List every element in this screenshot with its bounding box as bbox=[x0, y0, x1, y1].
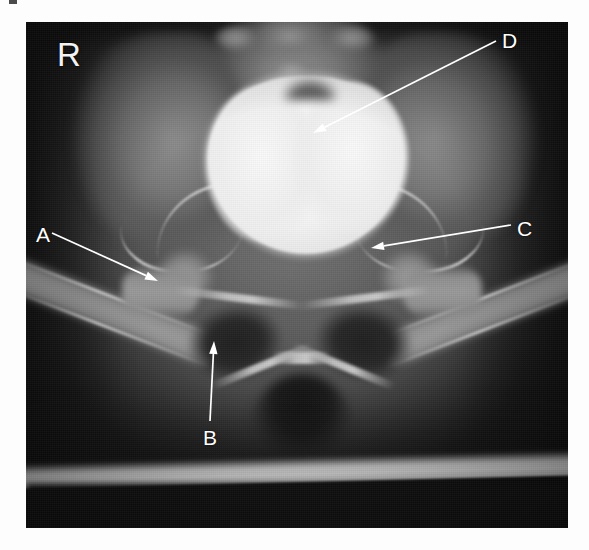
bladder-left-lobe bbox=[296, 82, 408, 234]
right-side-marker: R bbox=[57, 38, 81, 71]
radiograph-figure: R ABCD bbox=[0, 0, 589, 550]
scan-artifact bbox=[9, 0, 17, 4]
below-table-dark-area bbox=[26, 484, 568, 528]
pubic-symphysis bbox=[272, 352, 330, 364]
radiograph-image bbox=[26, 22, 568, 528]
transverse-process bbox=[212, 24, 260, 52]
bladder-dome-notch bbox=[284, 66, 336, 100]
transverse-process bbox=[326, 24, 376, 52]
vertebral-body bbox=[254, 22, 326, 56]
